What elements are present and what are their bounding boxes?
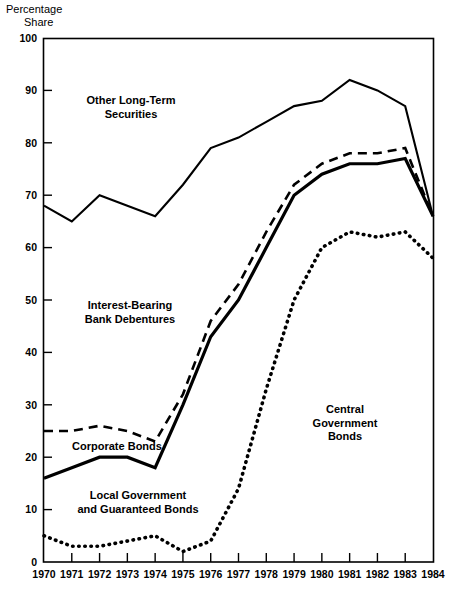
y-axis-tick-label: 80	[25, 137, 37, 149]
series-label-line: Other Long-Term	[86, 94, 175, 106]
series-label-central-government-bonds: CentralGovernmentBonds	[313, 403, 378, 442]
series-label-line: Bank Debentures	[85, 313, 175, 325]
y-axis-tick-label: 70	[25, 189, 37, 201]
series-annotations: Other Long-TermSecuritiesInterest-Bearin…	[72, 94, 378, 515]
x-axis-tick-label: 1982	[366, 568, 390, 580]
x-axis-tick-label: 1977	[227, 568, 251, 580]
x-axis-tick-label: 1971	[60, 568, 84, 580]
y-axis-title-line-1: Percentage	[6, 3, 62, 16]
x-axis-tick-label: 1981	[338, 568, 362, 580]
series-label-line: Central	[326, 403, 364, 415]
y-axis-tick-label: 100	[19, 32, 37, 44]
series-label-line: Interest-Bearing	[88, 299, 172, 311]
y-axis-tick-label: 90	[25, 84, 37, 96]
series-label-line: Bonds	[328, 430, 362, 442]
x-axis-tick-label: 1975	[171, 568, 195, 580]
y-axis-tick-label: 40	[25, 346, 37, 358]
series-label-line: and Guaranteed Bonds	[77, 503, 198, 515]
y-axis-tick-labels: 0102030405060708090100	[19, 32, 37, 568]
y-axis-tick-label: 0	[31, 556, 37, 568]
x-axis-tick-label: 1984	[421, 568, 445, 580]
series-label-other-long-term-securities: Other Long-TermSecurities	[86, 94, 175, 120]
y-axis-tick-label: 30	[25, 399, 37, 411]
y-axis-tick-label: 60	[25, 241, 37, 253]
series-label-line: Local Government	[90, 489, 187, 501]
x-axis-tick-label: 1980	[310, 568, 334, 580]
chart-container: Percentage Share 0102030405060708090100 …	[0, 0, 452, 591]
x-axis-tick-label: 1978	[255, 568, 279, 580]
series-label-line: Corporate Bonds	[72, 440, 162, 452]
x-axis-tick-labels: 1970197119721973197419751976197719781979…	[32, 568, 445, 580]
x-axis-tick-label: 1976	[199, 568, 223, 580]
y-axis-tick-label: 20	[25, 451, 37, 463]
y-axis-title-line-2: Share	[24, 16, 53, 29]
y-axis-tick-label: 10	[25, 503, 37, 515]
x-axis-tick-label: 1979	[282, 568, 306, 580]
y-axis-ticks	[44, 90, 52, 509]
x-axis-tick-label: 1983	[394, 568, 418, 580]
x-axis-ticks	[72, 553, 405, 562]
x-axis-tick-label: 1974	[143, 568, 167, 580]
series-label-corporate-bonds: Corporate Bonds	[72, 440, 162, 452]
x-axis-tick-label: 1973	[116, 568, 140, 580]
series-label-line: Government	[313, 417, 378, 429]
series-label-line: Securities	[105, 108, 158, 120]
line-chart: 0102030405060708090100 19701971197219731…	[0, 0, 452, 591]
x-axis-tick-label: 1972	[88, 568, 112, 580]
y-axis-tick-label: 50	[25, 294, 37, 306]
series-label-interest-bearing-bank-debentures: Interest-BearingBank Debentures	[85, 299, 175, 325]
series-line-interest-bearing-bank-debentures	[44, 148, 433, 441]
series-label-local-government-and-guaranteed-bonds: Local Governmentand Guaranteed Bonds	[77, 489, 198, 515]
x-axis-tick-label: 1970	[32, 568, 56, 580]
